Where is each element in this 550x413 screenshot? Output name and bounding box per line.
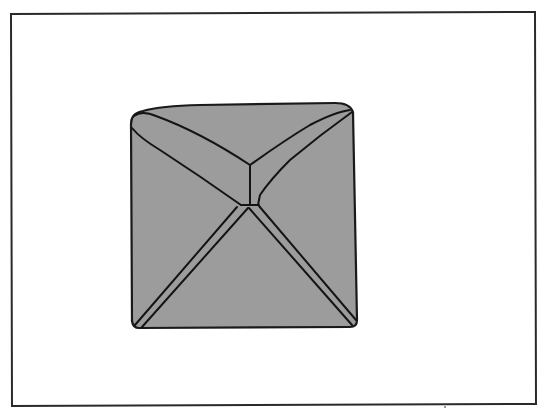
diagram-figure: Line drawing of a square gray form with … <box>0 0 550 413</box>
diagram-canvas <box>0 0 550 413</box>
square-body <box>131 103 357 328</box>
scan-speck <box>444 406 446 408</box>
